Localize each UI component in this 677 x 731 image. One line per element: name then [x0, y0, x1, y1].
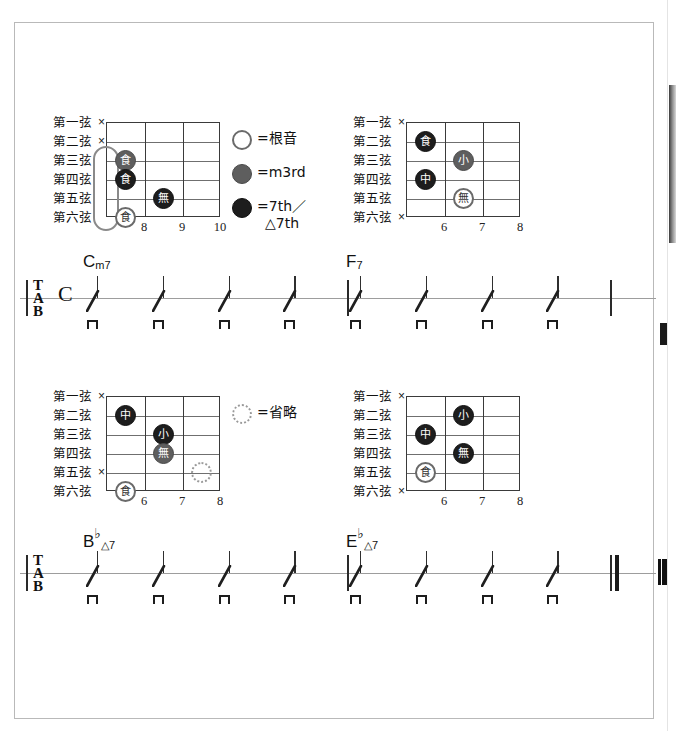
legend-swatch-black-circle: [232, 198, 252, 218]
rhythm-beat: [283, 276, 297, 332]
string-label-4: 第四弦: [353, 444, 392, 463]
muted-string-mark-1: ×: [398, 113, 405, 132]
rhythm-beat: [546, 551, 560, 607]
downstroke-mark: [416, 595, 427, 604]
legend-swatch-open-circle: [232, 130, 252, 150]
legend-swatch-gray-circle: [232, 164, 252, 184]
downstroke-mark: [547, 320, 558, 329]
string-label-6: 第六弦: [53, 208, 92, 227]
finger-dot-ebmaj7-s4: 無: [453, 443, 474, 464]
legend-row-omit: =省略: [232, 404, 297, 424]
downstroke-mark: [416, 320, 427, 329]
fret-line-2: [183, 397, 184, 490]
chord-quality: △7: [101, 539, 115, 551]
chord-quality: △7: [364, 539, 378, 551]
finger-dot-f7-s2: 食: [415, 131, 436, 152]
tab-clef: TAB: [33, 554, 43, 593]
rhythm-beat: [218, 276, 232, 332]
legend-label-0: =根音: [257, 130, 297, 147]
rhythm-slash: [546, 565, 559, 587]
string-label-5: 第五弦: [353, 463, 392, 482]
rhythm-slash: [86, 565, 99, 587]
string-label-6: 第六弦: [353, 208, 392, 227]
rhythm-slash: [481, 290, 494, 312]
rhythm-beat: [481, 276, 495, 332]
fret-number-6: 6: [134, 494, 154, 509]
downstroke-mark: [219, 595, 230, 604]
chord-quality: m7: [95, 259, 110, 271]
rhythm-beat: [152, 276, 166, 332]
muted-string-mark-1: ×: [98, 113, 105, 132]
string-line-2: [107, 142, 219, 143]
string-label-1: 第一弦: [353, 113, 392, 132]
rhythm-slash: [546, 290, 559, 312]
fret-number-10: 10: [210, 220, 230, 235]
finger-dot-cm7-s3: 食: [115, 150, 136, 171]
string-label-6: 第六弦: [53, 482, 92, 501]
string-label-4: 第四弦: [53, 444, 92, 463]
string-label-1: 第一弦: [353, 387, 392, 406]
fret-line-2: [183, 123, 184, 216]
final-barline-thick: [615, 555, 619, 591]
string-label-5: 第五弦: [53, 189, 92, 208]
finger-dot-f7-s5: 無: [453, 188, 474, 209]
fret-line-1: [445, 397, 446, 490]
vertical-scrollbar-track[interactable]: [667, 0, 677, 731]
string-label-5: 第五弦: [53, 463, 92, 482]
chord-symbol-e11: E♭△7: [346, 527, 378, 552]
fret-number-7: 7: [172, 494, 192, 509]
rhythm-slash: [481, 565, 494, 587]
legend-row-2: =7th／△7th: [232, 198, 306, 232]
legend-label-1: =m3rd: [257, 164, 306, 181]
downstroke-mark: [350, 595, 361, 604]
rhythm-slash: [218, 565, 231, 587]
downstroke-mark: [482, 320, 493, 329]
rhythm-beat: [349, 276, 363, 332]
rhythm-beat: [415, 551, 429, 607]
muted-string-mark-1: ×: [398, 387, 405, 406]
string-label-2: 第二弦: [353, 132, 392, 151]
string-label-3: 第三弦: [353, 151, 392, 170]
fret-line-1: [145, 123, 146, 216]
rhythm-slash: [283, 290, 296, 312]
vertical-scrollbar-thumb[interactable]: [669, 85, 676, 243]
fret-number-8: 8: [134, 220, 154, 235]
fret-line-1: [445, 123, 446, 216]
fret-number-7: 7: [472, 494, 492, 509]
legend-label-2: =7th／△7th: [257, 198, 306, 232]
finger-dot-ebmaj7-s5: 食: [415, 462, 436, 483]
page-edge-mark-lower: [658, 559, 667, 585]
staff-system-2: TABB♭△7E♭△7: [20, 545, 656, 615]
rhythm-slash: [349, 290, 362, 312]
downstroke-mark: [153, 320, 164, 329]
tab-clef: TAB: [33, 279, 43, 318]
staff-system-1: TABCCm7F7: [20, 270, 656, 340]
rhythm-slash: [415, 290, 428, 312]
finger-dot-f7-s3: 小: [453, 150, 474, 171]
rhythm-beat: [546, 276, 560, 332]
finger-dot-cm7-s6: 食: [115, 207, 136, 228]
downstroke-mark: [219, 320, 230, 329]
fret-number-8: 8: [510, 220, 530, 235]
rhythm-beat: [415, 276, 429, 332]
string-label-6: 第六弦: [353, 482, 392, 501]
rhythm-beat: [481, 551, 495, 607]
rhythm-beat: [86, 551, 100, 607]
fret-number-8: 8: [510, 494, 530, 509]
tab-clef-letter-b: B: [33, 580, 43, 593]
rhythm-slash: [415, 565, 428, 587]
rhythm-slash: [349, 565, 362, 587]
staff-line: [20, 298, 656, 299]
downstroke-mark: [87, 320, 98, 329]
chord-symbol-b01: B♭△7: [83, 527, 115, 552]
chord-accidental: ♭: [94, 525, 101, 541]
legend-label-2-line2: △7th: [257, 215, 306, 232]
start-barline: [26, 280, 28, 316]
fret-number-6: 6: [434, 494, 454, 509]
fret-number-8: 8: [210, 494, 230, 509]
legend-label-omit: =省略: [257, 404, 297, 421]
muted-string-mark-6: ×: [398, 482, 405, 501]
chord-symbol-f10: F7: [346, 252, 363, 272]
chord-quality: 7: [356, 259, 362, 271]
string-label-2: 第二弦: [53, 406, 92, 425]
